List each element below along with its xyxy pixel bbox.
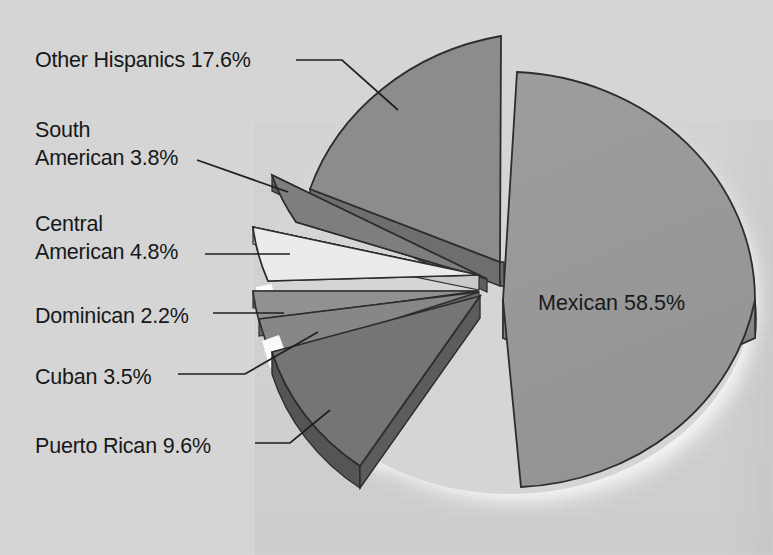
- label-south-american-line1: South: [35, 116, 178, 144]
- label-mexican: Mexican 58.5%: [538, 291, 685, 316]
- label-cuban: Cuban 3.5%: [35, 363, 151, 391]
- label-puerto-rican: Puerto Rican 9.6%: [35, 432, 211, 460]
- label-dominican: Dominican 2.2%: [35, 302, 189, 330]
- label-central-american: Central American 4.8%: [35, 210, 178, 267]
- pie-chart-canvas: [0, 0, 773, 555]
- label-other-hispanics: Other Hispanics 17.6%: [35, 46, 251, 74]
- chart-figure: Other Hispanics 17.6% South American 3.8…: [0, 0, 773, 555]
- label-south-american-line2: American 3.8%: [35, 144, 178, 172]
- label-central-american-line1: Central: [35, 210, 178, 238]
- slice-mexican[interactable]: [503, 72, 756, 487]
- label-central-american-line2: American 4.8%: [35, 238, 178, 266]
- label-south-american: South American 3.8%: [35, 116, 178, 173]
